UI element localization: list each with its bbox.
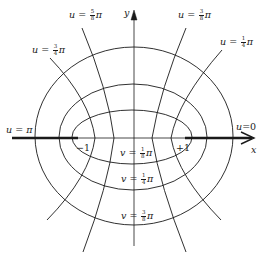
label-u-3-8-den: 8 bbox=[199, 16, 204, 22]
label-u-0-value: 0 bbox=[250, 121, 256, 132]
label-v-1-8-eq: = bbox=[125, 147, 139, 158]
label-u-3-8-eq: = bbox=[184, 9, 198, 20]
label-u-0-eq: = bbox=[242, 121, 250, 132]
label-u-1-4-fraction: 14 bbox=[241, 36, 246, 48]
focus-minus-one-label: −1 bbox=[76, 143, 90, 153]
label-u-5-8-den: 8 bbox=[90, 16, 95, 22]
label-v-1-8-den: 8 bbox=[140, 154, 145, 160]
hyperbola-u-1-4 bbox=[171, 50, 222, 220]
label-u-3-8-pi: π bbox=[205, 9, 211, 20]
label-v-1-4-pi: v = 14π bbox=[121, 173, 153, 185]
label-v-1-8-fraction: 18 bbox=[140, 147, 145, 159]
label-u-5-8-fraction: 58 bbox=[90, 9, 95, 21]
label-u-3-4-pi: π bbox=[59, 44, 65, 55]
label-v-1-4-pi: π bbox=[147, 173, 153, 184]
label-u-3-4-pi: u = 34π bbox=[32, 44, 65, 56]
label-u-0: u=0 bbox=[236, 122, 256, 132]
label-u-3-4-fraction: 34 bbox=[53, 44, 58, 56]
label-v-1-4-fraction: 14 bbox=[141, 173, 146, 185]
y-axis-label: y bbox=[124, 8, 129, 18]
label-u-5-8-pi: π bbox=[96, 9, 102, 20]
label-v-1-4-eq: = bbox=[126, 173, 140, 184]
label-u-pi: u = π bbox=[6, 125, 32, 135]
label-v-3-8-pi: v = 38π bbox=[121, 210, 153, 222]
label-u-3-8-pi: u = 38π bbox=[178, 9, 211, 21]
label-u-1-4-den: 4 bbox=[241, 43, 246, 49]
label-u-1-4-eq: = bbox=[226, 36, 240, 47]
hyperbola-u-3-8 bbox=[152, 28, 186, 252]
label-v-3-8-den: 8 bbox=[141, 217, 146, 223]
label-v-1-4-den: 4 bbox=[141, 180, 146, 186]
label-v-3-8-fraction: 38 bbox=[141, 210, 146, 222]
focus-plus-one-label: +1 bbox=[176, 143, 190, 153]
label-v-3-8-pi: π bbox=[147, 210, 153, 221]
label-v-1-8-pi: v = 18π bbox=[120, 147, 152, 159]
x-axis-label: x bbox=[251, 145, 256, 155]
label-u-5-8-pi: u = 58π bbox=[69, 9, 102, 21]
label-u-1-4-pi: u = 14π bbox=[220, 36, 253, 48]
label-u-5-8-eq: = bbox=[75, 9, 89, 20]
label-v-1-8-pi: π bbox=[146, 147, 152, 158]
label-u-3-4-den: 4 bbox=[53, 51, 58, 57]
label-u-pi-value: π bbox=[26, 124, 32, 135]
hyperbola-u-5-8 bbox=[82, 28, 114, 252]
y-axis-arrowhead-icon bbox=[131, 10, 137, 20]
label-u-pi-eq: = bbox=[12, 124, 26, 135]
label-u-1-4-pi: π bbox=[247, 36, 253, 47]
label-u-3-4-eq: = bbox=[38, 44, 52, 55]
label-u-3-8-fraction: 38 bbox=[199, 9, 204, 21]
label-v-3-8-eq: = bbox=[126, 210, 140, 221]
